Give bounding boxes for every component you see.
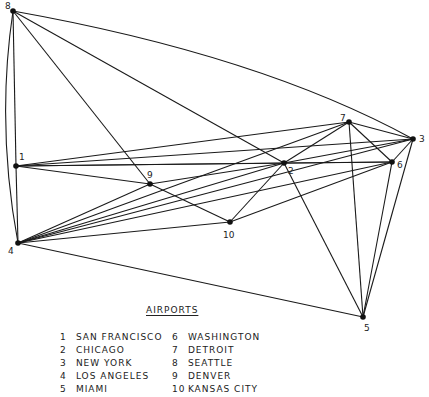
route-edge-8-1 bbox=[13, 11, 16, 166]
route-edge-9-10 bbox=[150, 184, 230, 222]
airport-nodes: 12345678910 bbox=[5, 1, 425, 333]
legend-column-2: 6 WASHINGTON 7 DETROIT 8 SEATTLE 9 DENVE… bbox=[172, 331, 260, 396]
route-edge-1-9 bbox=[16, 166, 150, 184]
legend-item-number: 6 bbox=[172, 331, 184, 344]
legend-item-number: 9 bbox=[172, 370, 184, 383]
airport-node-label: 6 bbox=[397, 160, 403, 170]
airport-node-6 bbox=[389, 159, 395, 165]
legend-item: 7 DETROIT bbox=[172, 344, 260, 357]
legend-item-name: SEATTLE bbox=[188, 358, 233, 368]
route-edge-4-10 bbox=[18, 222, 230, 243]
legend-item-name: DETROIT bbox=[188, 345, 235, 355]
legend-item: 5 MIAMI bbox=[60, 383, 162, 396]
legend-item: 4 LOS ANGELES bbox=[60, 370, 162, 383]
legend-item-name: KANSAS CITY bbox=[188, 384, 258, 394]
airport-node-2 bbox=[281, 160, 287, 166]
legend-item: 9 DENVER bbox=[172, 370, 260, 383]
airport-node-9 bbox=[147, 181, 153, 187]
legend-item-name: WASHINGTON bbox=[188, 332, 260, 342]
legend-item-number: 10 bbox=[172, 383, 184, 396]
legend-item-number: 7 bbox=[172, 344, 184, 357]
legend-item: 2 CHICAGO bbox=[60, 344, 162, 357]
route-edge-8-3 bbox=[13, 11, 413, 139]
legend-item: 10 KANSAS CITY bbox=[172, 383, 260, 396]
airport-node-3 bbox=[410, 136, 416, 142]
legend-item: 3 NEW YORK bbox=[60, 357, 162, 370]
airport-node-7 bbox=[346, 119, 352, 125]
legend-item-number: 5 bbox=[60, 383, 72, 396]
airport-node-label: 1 bbox=[19, 152, 25, 162]
airport-node-4 bbox=[15, 240, 21, 246]
route-edge-8-4 bbox=[6, 11, 18, 243]
route-edge-9-2 bbox=[150, 163, 284, 184]
route-edge-8-2 bbox=[13, 11, 284, 163]
airport-node-label: 8 bbox=[5, 1, 11, 11]
airport-node-5 bbox=[360, 314, 366, 320]
route-edge-1-7 bbox=[16, 122, 349, 166]
route-edge-2-6 bbox=[284, 162, 392, 163]
legend-item-name: DENVER bbox=[188, 371, 231, 381]
legend-title: AIRPORTS bbox=[146, 305, 198, 315]
legend-item: 1 SAN FRANCISCO bbox=[60, 331, 162, 344]
legend-item: 6 WASHINGTON bbox=[172, 331, 260, 344]
legend-item-name: LOS ANGELES bbox=[76, 371, 149, 381]
legend-item: 8 SEATTLE bbox=[172, 357, 260, 370]
route-edge-2-5 bbox=[284, 163, 363, 317]
airport-node-label: 5 bbox=[364, 323, 370, 333]
route-edge-7-5 bbox=[349, 122, 363, 317]
airport-node-label: 2 bbox=[288, 166, 294, 176]
legend-item-number: 2 bbox=[60, 344, 72, 357]
legend-item-number: 8 bbox=[172, 357, 184, 370]
legend-item-number: 1 bbox=[60, 331, 72, 344]
airport-node-label: 4 bbox=[8, 246, 14, 256]
route-edge-6-5 bbox=[363, 162, 392, 317]
legend-item-number: 3 bbox=[60, 357, 72, 370]
airport-node-1 bbox=[13, 163, 19, 169]
legend-item-name: NEW YORK bbox=[76, 358, 132, 368]
route-edge-3-5 bbox=[363, 139, 413, 317]
airport-node-label: 3 bbox=[419, 134, 425, 144]
legend-column-1: 1 SAN FRANCISCO 2 CHICAGO 3 NEW YORK 4 L… bbox=[60, 331, 162, 396]
legend-item-name: SAN FRANCISCO bbox=[76, 332, 163, 342]
legend-item-name: CHICAGO bbox=[76, 345, 125, 355]
airport-node-8 bbox=[10, 8, 16, 14]
airport-node-10 bbox=[227, 219, 233, 225]
legend-item-number: 4 bbox=[60, 370, 72, 383]
airport-node-label: 7 bbox=[340, 113, 346, 123]
airport-node-label: 10 bbox=[223, 230, 235, 240]
legend-item-name: MIAMI bbox=[76, 384, 108, 394]
route-edges bbox=[6, 11, 413, 317]
airport-node-label: 9 bbox=[147, 170, 153, 180]
route-edge-10-2 bbox=[230, 163, 284, 222]
